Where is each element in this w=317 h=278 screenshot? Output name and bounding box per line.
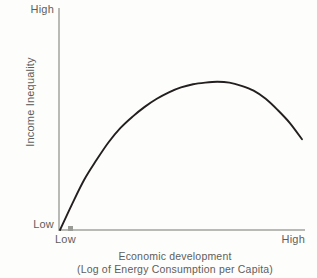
curve-plot-area — [0, 0, 317, 278]
kuznets-curve-path — [60, 82, 302, 230]
kuznets-curve-figure: High Low Low High Income Inequality Econ… — [0, 0, 317, 278]
